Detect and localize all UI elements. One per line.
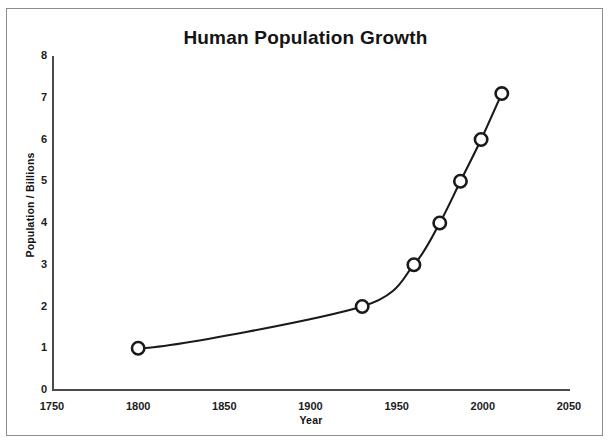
data-point-1960 (408, 259, 420, 271)
y-tick-1: 1 (7, 342, 47, 353)
y-tick-0: 0 (7, 384, 47, 395)
y-tick-7: 7 (7, 92, 47, 103)
y-tick-3: 3 (7, 259, 47, 270)
series-markers (132, 87, 508, 354)
data-point-1999 (475, 133, 487, 145)
y-tick-label: 5 (19, 175, 47, 186)
x-axis-title: Year (52, 414, 570, 426)
y-tick-6: 6 (7, 134, 47, 145)
data-series-layer (7, 9, 604, 437)
data-point-1800 (132, 342, 144, 354)
data-point-1987 (454, 175, 466, 187)
y-tick-label: 3 (19, 259, 47, 270)
data-point-1975 (434, 217, 446, 229)
data-point-2011 (496, 87, 508, 99)
y-axis-line (52, 56, 54, 391)
y-tick-2: 2 (7, 301, 47, 312)
y-tick-4: 4 (7, 217, 47, 228)
x-tick-label: 1950 (384, 400, 408, 412)
x-axis-line (52, 389, 570, 391)
x-tick-label: 2050 (557, 400, 581, 412)
x-tick-label: 1800 (126, 400, 150, 412)
x-tick-2050: 2050 (539, 396, 599, 414)
y-tick-label: 8 (19, 50, 47, 61)
y-tick-label: 6 (19, 134, 47, 145)
y-tick-label: 1 (19, 342, 47, 353)
x-tick-1750: 1750 (22, 396, 82, 414)
figure-frame: Human Population Growth Population / Bil… (6, 8, 603, 436)
x-tick-label: 1900 (298, 400, 322, 412)
x-tick-label: 2000 (471, 400, 495, 412)
y-axis-title: Population / Billions (24, 135, 36, 275)
y-tick-label: 7 (19, 92, 47, 103)
y-tick-8: 8 (7, 50, 47, 61)
y-tick-5: 5 (7, 175, 47, 186)
x-tick-1900: 1900 (281, 396, 341, 414)
x-tick-1850: 1850 (194, 396, 254, 414)
x-tick-label: 1850 (212, 400, 236, 412)
page-top-bleed-text (0, 0, 611, 7)
y-tick-label: 4 (19, 217, 47, 228)
x-tick-2000: 2000 (453, 396, 513, 414)
x-tick-1950: 1950 (367, 396, 427, 414)
data-point-1930 (356, 300, 368, 312)
y-tick-label: 2 (19, 301, 47, 312)
y-tick-label: 0 (19, 384, 47, 395)
scanned-page: Human Population Growth Population / Bil… (0, 0, 611, 444)
x-tick-1800: 1800 (108, 396, 168, 414)
series-line-world-population (138, 94, 502, 349)
x-tick-label: 1750 (40, 400, 64, 412)
plot-area: Population / Billions Year 012345678 175… (7, 9, 604, 437)
